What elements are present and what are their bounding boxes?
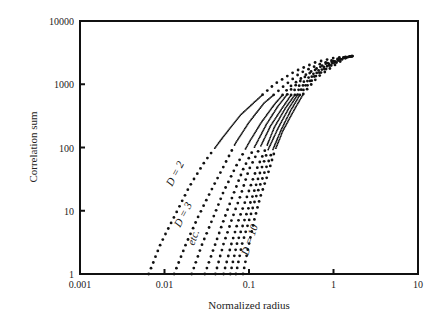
x-tick-label: 0.001 <box>69 279 92 290</box>
x-tick-label: 1 <box>331 279 336 290</box>
annotation-d2: D = 2 <box>163 159 187 189</box>
annotation-etc: etc. <box>185 228 202 247</box>
y-tick-label: 1000 <box>54 79 74 90</box>
x-tick-label: 10 <box>413 279 423 290</box>
y-axis-title: Correlation sum <box>27 111 39 183</box>
y-tick-label: 1 <box>69 269 74 280</box>
x-tick-label: 0.1 <box>243 279 256 290</box>
y-tick-label: 100 <box>59 143 74 154</box>
annotation-d10: D = 10 <box>238 222 260 257</box>
annotation-d3: D = 3 <box>171 200 195 230</box>
y-tick-label: 10000 <box>49 16 74 27</box>
chart: 0.0010.010.1110110100100010000 Normalize… <box>0 0 442 331</box>
series-d=4 <box>190 55 353 276</box>
series-d=10 <box>242 55 353 275</box>
x-axis-title: Normalized radius <box>208 299 290 311</box>
series-d=3 <box>173 55 351 275</box>
x-tick-label: 0.01 <box>156 279 174 290</box>
series-d=6 <box>214 55 354 276</box>
y-tick-label: 10 <box>64 206 74 217</box>
series-d=5 <box>203 55 350 275</box>
